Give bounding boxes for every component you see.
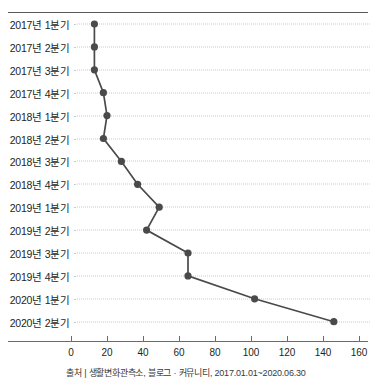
x-axis-tick-label: 140 xyxy=(315,347,332,358)
x-axis-tick-label: 40 xyxy=(137,347,148,358)
x-axis-tick xyxy=(359,336,360,342)
data-point-marker xyxy=(91,20,98,27)
data-point-marker xyxy=(330,318,337,325)
plot-area: 2017년 1분기2017년 2분기2017년 3분기2017년 4분기2018… xyxy=(0,0,376,385)
x-axis-tick xyxy=(143,336,144,342)
x-axis-tick xyxy=(287,336,288,342)
x-axis-tick xyxy=(215,336,216,342)
data-point-marker xyxy=(103,112,110,119)
series-line xyxy=(94,24,333,322)
x-axis-tick xyxy=(107,336,108,342)
data-point-marker xyxy=(91,66,98,73)
x-axis-tick xyxy=(179,336,180,342)
data-point-marker xyxy=(91,43,98,50)
x-axis-tick-label: 120 xyxy=(279,347,296,358)
data-point-marker xyxy=(251,295,258,302)
series-marker-group xyxy=(91,20,338,325)
chart-container: 2017년 1분기2017년 2분기2017년 3분기2017년 4분기2018… xyxy=(0,0,376,385)
x-axis-tick-label: 80 xyxy=(209,347,220,358)
data-point-marker xyxy=(184,272,191,279)
x-axis-tick-label: 160 xyxy=(351,347,368,358)
data-point-marker xyxy=(100,135,107,142)
x-axis-tick-label: 0 xyxy=(68,347,74,358)
data-point-marker xyxy=(118,158,125,165)
x-axis-tick-label: 100 xyxy=(243,347,260,358)
x-axis-tick-label: 60 xyxy=(173,347,184,358)
data-point-marker xyxy=(100,89,107,96)
data-point-marker xyxy=(143,227,150,234)
data-point-marker xyxy=(184,249,191,256)
data-point-marker xyxy=(156,204,163,211)
line-series-layer xyxy=(0,0,376,385)
x-axis-tick xyxy=(71,336,72,342)
source-caption: 출처 | 생활변화관측소, 블로그 · 커뮤니티, 2017.01.01~202… xyxy=(0,366,372,379)
x-axis-tick xyxy=(323,336,324,342)
x-axis-tick xyxy=(251,336,252,342)
data-point-marker xyxy=(134,181,141,188)
x-axis-tick-label: 20 xyxy=(101,347,112,358)
x-axis-line xyxy=(8,341,368,342)
